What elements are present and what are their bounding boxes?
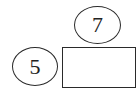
answer-box (62, 47, 136, 88)
number-circle-top: 7 (74, 6, 121, 44)
number-label-left: 5 (30, 54, 41, 80)
number-circle-left: 5 (12, 47, 58, 86)
number-label-top: 7 (92, 12, 103, 38)
